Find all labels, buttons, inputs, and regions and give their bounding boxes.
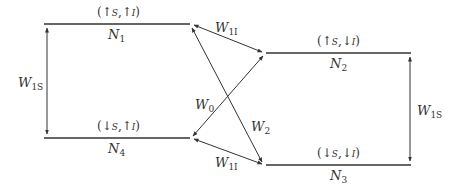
transition-label-w1i-bottom: W1I (215, 156, 238, 169)
transition-label-w0: W0 (195, 98, 214, 111)
level-label-n1: N1 (108, 28, 125, 41)
transition-label-w1i-top: W1I (215, 21, 238, 34)
level-label-n3: N3 (330, 169, 347, 182)
state-label-n4: (↓S,↑I) (97, 120, 140, 134)
transition-label-w2: W2 (251, 120, 270, 133)
state-label-n3: (↓S,↓I) (317, 147, 360, 161)
transition-label-w1s-right: W1S (417, 104, 442, 117)
level-label-n4: N4 (108, 142, 125, 155)
state-label-n1: (↑S,↑I) (97, 6, 140, 20)
transition-label-w1s-left: W1S (18, 76, 43, 89)
state-label-n2: (↑S,↓I) (317, 35, 360, 49)
level-label-n2: N2 (330, 57, 347, 70)
